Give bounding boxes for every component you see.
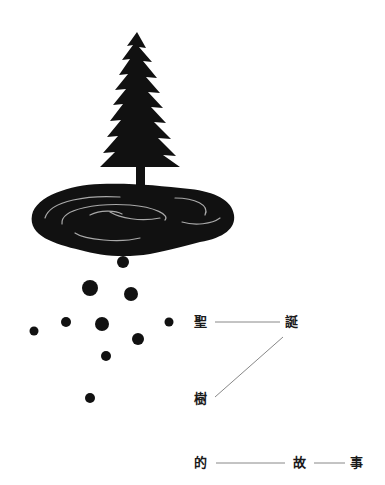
drop xyxy=(101,351,111,361)
connector-lines xyxy=(215,322,345,463)
title-char-shi: 事 xyxy=(350,456,363,469)
drop xyxy=(165,318,174,327)
drop xyxy=(95,317,109,331)
tree-icon xyxy=(100,32,180,194)
drop xyxy=(30,327,39,336)
title-char-shu: 樹 xyxy=(194,392,207,405)
drop xyxy=(85,393,95,403)
tree-foliage xyxy=(100,32,180,167)
illustration xyxy=(0,0,385,485)
drop xyxy=(61,317,71,327)
line-dan-shu xyxy=(215,337,283,397)
title-char-gu: 故 xyxy=(293,456,306,469)
title-char-dan: 誕 xyxy=(285,315,298,328)
drops xyxy=(30,256,174,403)
drop xyxy=(132,333,144,345)
drop xyxy=(117,256,129,268)
title-char-sheng: 聖 xyxy=(194,315,207,328)
puddle-icon xyxy=(32,184,235,256)
drop xyxy=(124,287,138,301)
drop xyxy=(82,280,98,296)
title-char-de: 的 xyxy=(194,456,207,469)
